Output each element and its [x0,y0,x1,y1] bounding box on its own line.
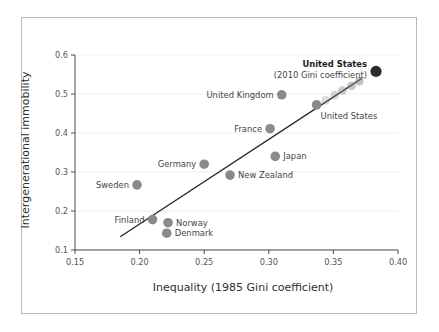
data-point-label: Sweden [96,180,129,190]
data-point [277,90,287,100]
trail-marker [330,91,339,100]
data-point-label: Japan [282,151,306,161]
scatter-plot: 0.150.200.250.300.350.40 0.10.20.30.40.5… [0,0,439,332]
x-tick-label: 0.25 [195,257,213,267]
data-point [225,170,235,180]
data-point-label: United Kingdom [206,90,273,100]
data-point [132,180,142,190]
x-tick-label: 0.35 [324,257,342,267]
us-trail-markers [321,77,363,105]
x-tick-label: 0.15 [66,257,84,267]
data-point-label: Denmark [175,228,214,238]
data-point-label: Norway [176,218,208,228]
x-tick-label: 0.30 [260,257,278,267]
data-point [270,152,280,162]
y-tick-label: 0.1 [55,245,68,255]
trail-marker [347,81,356,90]
x-tick-label: 0.20 [130,257,148,267]
data-point [148,215,158,225]
chart-figure: 0.150.200.250.300.350.40 0.10.20.30.40.5… [0,0,439,332]
data-point-label: United States [302,59,367,69]
data-point [163,218,173,228]
x-tick-label: 0.40 [389,257,407,267]
trail-marker [321,96,330,105]
gini-year-annotation: (2010 Gini coefficient) [274,70,367,80]
data-point-label: France [234,124,262,134]
data-point-label: Finland [115,215,145,225]
y-axis-title: Intergenerational immobility [19,71,32,228]
y-tick-label: 0.5 [55,89,68,99]
chart-annotation: (2010 Gini coefficient) [274,70,367,80]
data-point [162,228,172,238]
data-point-highlight [370,66,381,77]
x-axis-ticks: 0.150.200.250.300.350.40 [66,250,407,267]
data-point [312,100,322,110]
data-point-label: New Zealand [238,170,293,180]
y-tick-label: 0.6 [55,50,68,60]
data-point [265,124,275,134]
x-axis-title: Inequality (1985 Gini coefficient) [153,281,334,294]
trail-marker [338,86,347,95]
y-tick-label: 0.4 [55,128,68,138]
y-tick-label: 0.2 [55,206,68,216]
data-point [199,159,209,169]
y-tick-label: 0.3 [55,167,68,177]
data-point-label: Germany [158,159,197,169]
y-axis-ticks: 0.10.20.30.40.50.6 [55,50,75,255]
data-point-label: United States [321,111,378,121]
